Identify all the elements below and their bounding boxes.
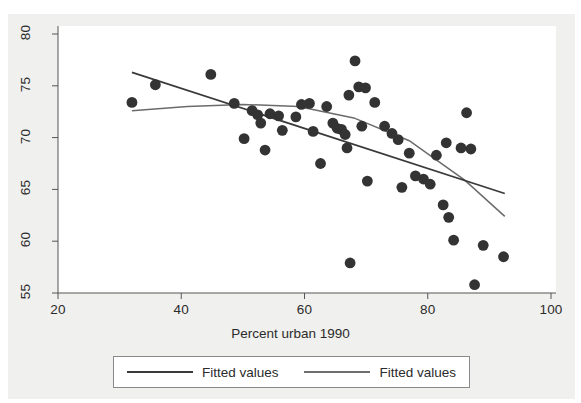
scatter-point (277, 125, 288, 136)
scatter-point (469, 279, 480, 290)
scatter-point (425, 179, 436, 190)
scatter-point (273, 110, 284, 121)
scatter-point (404, 148, 415, 159)
scatter-point (340, 129, 351, 140)
scatter-point (441, 137, 452, 148)
scatter-point (342, 143, 353, 154)
axis-lines (58, 26, 556, 293)
scatter-point (396, 182, 407, 193)
legend-entry-1: Fitted values (292, 365, 470, 380)
scatter-point (290, 111, 301, 122)
y-tick-label-65: 65 (18, 175, 33, 201)
scatter-point (255, 118, 266, 129)
scatter-point (260, 145, 271, 156)
scatter-point (304, 98, 315, 109)
x-tick-label-100: 100 (531, 302, 571, 317)
scatter-point (308, 126, 319, 137)
scatter-point (350, 56, 361, 67)
x-tick-label-20: 20 (38, 302, 78, 317)
scatter-point (465, 144, 476, 155)
y-tick-label-55: 55 (18, 279, 33, 305)
scatter-point (205, 69, 216, 80)
x-tick-label-60: 60 (285, 302, 325, 317)
scatter-point (443, 212, 454, 223)
tick-marks (52, 34, 551, 299)
scatter-point (360, 82, 371, 93)
scatter-point (321, 101, 332, 112)
chart-legend: Fitted values Fitted values (113, 356, 470, 388)
scatter-point (498, 251, 509, 262)
y-tick-label-70: 70 (18, 123, 33, 149)
scatter-points (127, 56, 509, 291)
y-tick-label-75: 75 (18, 71, 33, 97)
scatter-point (345, 258, 356, 269)
scatter-point (229, 98, 240, 109)
figure-canvas: 556065707580 20406080100 Percent urban 1… (0, 0, 581, 403)
scatter-point (461, 107, 472, 118)
scatter-point (431, 150, 442, 161)
scatter-point (456, 143, 467, 154)
legend-swatch-quadratic (304, 371, 370, 373)
scatter-point (478, 240, 489, 251)
scatter-point (315, 158, 326, 169)
x-tick-label-40: 40 (161, 302, 201, 317)
y-tick-label-60: 60 (18, 227, 33, 253)
fitted-line-linear (132, 72, 505, 193)
scatter-point (448, 235, 459, 246)
scatter-point (393, 134, 404, 145)
x-tick-label-80: 80 (408, 302, 448, 317)
x-axis-title: Percent urban 1990 (0, 326, 581, 341)
scatter-point (369, 97, 380, 108)
scatter-point (239, 133, 250, 144)
scatter-point (150, 79, 161, 90)
scatter-point (356, 121, 367, 132)
y-tick-label-80: 80 (18, 20, 33, 46)
legend-label-1: Fitted values (379, 365, 456, 380)
scatter-point (438, 200, 449, 211)
scatter-point (343, 90, 354, 101)
scatter-point (127, 97, 138, 108)
legend-entry-0: Fitted values (114, 365, 292, 380)
legend-label-0: Fitted values (202, 365, 279, 380)
chart-graphics (0, 0, 581, 403)
scatter-point (362, 176, 373, 187)
legend-swatch-linear (127, 371, 193, 373)
